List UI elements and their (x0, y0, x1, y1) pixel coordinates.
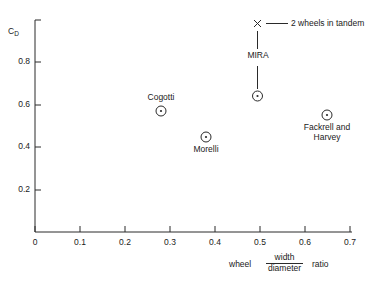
annotation-label-tandem: 2 wheels in tandem (291, 19, 364, 29)
fackrell-label-line1: Fackrell and (304, 122, 350, 132)
datapoint-label-cogotti: Cogotti (131, 93, 191, 103)
datapoint-label-mira: MIRA (228, 51, 288, 61)
datapoint-label-morelli: Morelli (176, 145, 236, 155)
datapoint-mira (253, 91, 263, 101)
x-tick-label-0.5: 0.5 (248, 238, 272, 248)
x-axis-title-numerator: width (266, 253, 303, 263)
x-axis-title-fraction: width diameter (266, 253, 303, 273)
x-tick-label-0.7: 0.7 (338, 238, 362, 248)
scatter-chart: CD 0.8 0.6 0.4 0.2 0 0.1 0.2 0.3 0.4 0.5… (0, 0, 379, 282)
x-tick-label-0.3: 0.3 (158, 238, 182, 248)
y-tick-label-0.8: 0.8 (4, 57, 30, 67)
y-axis-title: CD (8, 27, 19, 37)
x-axis-title-suffix: ratio (312, 260, 329, 270)
x-axis-title-denominator: diameter (266, 263, 303, 274)
x-tick-label-0.2: 0.2 (113, 238, 137, 248)
x-tick-label-0.4: 0.4 (203, 238, 227, 248)
y-tick-label-0.6: 0.6 (4, 100, 30, 110)
x-tick-label-0: 0 (23, 238, 47, 248)
fackrell-label-line2: Harvey (314, 132, 341, 142)
datapoint-label-fackrell-and-harvey: Fackrell andHarvey (292, 123, 362, 142)
y-tick-label-0.2: 0.2 (4, 185, 30, 195)
datapoint-cogotti (156, 106, 166, 116)
datapoint-morelli (201, 132, 211, 142)
y-axis-title-subscript: D (14, 30, 19, 37)
tandem-cross-marker (254, 20, 261, 27)
datapoint-fackrell-and-harvey (322, 110, 332, 120)
x-axis-title-prefix: wheel (229, 260, 251, 270)
x-tick-label-0.1: 0.1 (68, 238, 92, 248)
x-tick-label-0.6: 0.6 (293, 238, 317, 248)
y-tick-label-0.4: 0.4 (4, 142, 30, 152)
